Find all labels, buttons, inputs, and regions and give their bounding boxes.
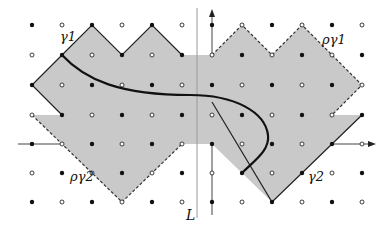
arrow-right-icon: [368, 141, 376, 147]
filled-dot: [270, 142, 274, 146]
filled-dot: [210, 83, 214, 87]
filled-dot: [270, 200, 274, 204]
filled-dot: [60, 171, 64, 175]
filled-dot: [240, 171, 244, 175]
hollow-dot: [60, 83, 64, 87]
filled-dot: [60, 113, 64, 117]
filled-dot: [300, 171, 304, 175]
hollow-dot: [60, 142, 64, 146]
filled-dot: [60, 53, 64, 57]
hollow-dot: [120, 23, 124, 27]
filled-dot: [270, 83, 274, 87]
filled-dot: [360, 113, 364, 117]
filled-dot: [240, 53, 244, 57]
hollow-dot: [240, 200, 244, 204]
filled-dot: [90, 200, 94, 204]
arrow-up-icon: [209, 9, 215, 17]
hollow-dot: [300, 200, 304, 204]
hollow-dot: [120, 83, 124, 87]
hollow-dot: [300, 142, 304, 146]
filled-dot: [330, 23, 334, 27]
hollow-dot: [180, 83, 184, 87]
filled-dot: [120, 171, 124, 175]
hollow-dot: [180, 200, 184, 204]
hollow-dot: [60, 23, 64, 27]
hollow-dot: [330, 113, 334, 117]
filled-dot: [300, 113, 304, 117]
filled-dot: [150, 200, 154, 204]
filled-dot: [30, 142, 34, 146]
label-rho-gamma2: ργ2: [70, 170, 94, 183]
filled-dot: [150, 142, 154, 146]
hollow-dot: [150, 171, 154, 175]
filled-dot: [30, 83, 34, 87]
filled-dot: [180, 171, 184, 175]
hollow-dot: [210, 171, 214, 175]
hollow-dot: [330, 53, 334, 57]
filled-dot: [360, 171, 364, 175]
filled-dot: [330, 142, 334, 146]
filled-dot: [180, 113, 184, 117]
filled-dot: [270, 23, 274, 27]
hollow-dot: [180, 23, 184, 27]
hollow-dot: [360, 142, 364, 146]
filled-dot: [330, 83, 334, 87]
filled-dot: [330, 200, 334, 204]
hollow-dot: [120, 142, 124, 146]
filled-dot: [30, 200, 34, 204]
label-gamma1: γ1: [60, 30, 76, 43]
hollow-dot: [210, 53, 214, 57]
hollow-dot: [30, 53, 34, 57]
filled-dot: [150, 23, 154, 27]
hollow-dot: [150, 113, 154, 117]
hollow-dot: [300, 83, 304, 87]
hollow-dot: [240, 142, 244, 146]
filled-dot: [360, 53, 364, 57]
hollow-dot: [30, 113, 34, 117]
filled-dot: [90, 23, 94, 27]
hollow-dot: [240, 83, 244, 87]
hollow-dot: [120, 200, 124, 204]
filled-dot: [90, 83, 94, 87]
hollow-dot: [150, 53, 154, 57]
filled-dot: [30, 23, 34, 27]
filled-dot: [120, 113, 124, 117]
hollow-dot: [210, 113, 214, 117]
filled-dot: [150, 83, 154, 87]
hollow-dot: [360, 23, 364, 27]
filled-dot: [300, 53, 304, 57]
hollow-dot: [360, 200, 364, 204]
filled-dot: [210, 200, 214, 204]
hollow-dot: [180, 142, 184, 146]
hollow-dot: [360, 83, 364, 87]
hollow-dot: [30, 171, 34, 175]
label-line-L: L: [186, 208, 195, 222]
hollow-dot: [90, 113, 94, 117]
hollow-dot: [270, 53, 274, 57]
hollow-dot: [300, 23, 304, 27]
hollow-dot: [240, 23, 244, 27]
filled-dot: [210, 142, 214, 146]
label-rho-gamma1: ργ1: [322, 33, 346, 46]
hollow-dot: [90, 53, 94, 57]
label-gamma2: γ2: [308, 170, 324, 183]
filled-dot: [240, 113, 244, 117]
filled-dot: [210, 23, 214, 27]
filled-dot: [90, 142, 94, 146]
hollow-dot: [330, 171, 334, 175]
hollow-dot: [270, 113, 274, 117]
hollow-dot: [270, 171, 274, 175]
hollow-dot: [60, 200, 64, 204]
filled-dot: [180, 53, 184, 57]
filled-dot: [120, 53, 124, 57]
